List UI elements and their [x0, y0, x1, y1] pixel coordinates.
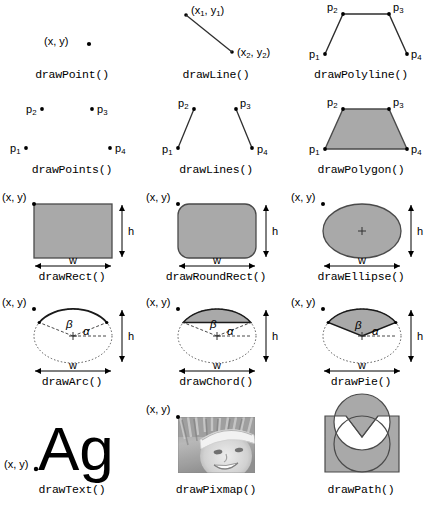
draw-text-art: Ag (x, y) — [0, 400, 144, 485]
pie-origin-dot — [321, 307, 325, 311]
chord-xy-label: (x, y) — [146, 296, 170, 308]
polygon-shape — [325, 109, 407, 149]
polyline-label-p3: p3 — [393, 1, 403, 15]
arc-center-cross — [69, 332, 77, 340]
rect-width-label: w — [68, 254, 77, 266]
pie-endpoint-alpha — [394, 321, 397, 324]
cell-draw-pie: α β (x, y) h w drawPie() — [289, 295, 433, 400]
chord-beta-label: β — [209, 318, 217, 330]
draw-point-art: (x, y) — [0, 0, 144, 70]
caption-draw-polyline: drawPolyline() — [289, 68, 433, 81]
pixmap-xy-label: (x, y) — [146, 403, 170, 415]
cell-draw-polyline: p1 p2 p3 p4 drawPolyline() — [289, 0, 433, 95]
points-label-p1: p1 — [10, 142, 20, 156]
polygon-label-p2: p2 — [327, 96, 337, 110]
arc-xy-label: (x, y) — [2, 296, 26, 308]
roundrect-height-label: h — [272, 225, 278, 237]
lines-dot-p2 — [192, 107, 196, 111]
cell-draw-pixmap: (x, y) drawPixmap() — [144, 400, 288, 508]
caption-draw-point: drawPoint() — [0, 68, 144, 81]
chord-center-cross — [213, 332, 221, 340]
points-label-p2: p2 — [26, 103, 36, 117]
caption-draw-line: drawLine() — [144, 68, 288, 81]
ellipse-height-label: h — [417, 225, 423, 237]
points-label-p4: p4 — [115, 142, 126, 156]
polyline-label-p4: p4 — [411, 48, 422, 62]
caption-draw-rect: drawRect() — [0, 270, 144, 283]
cell-draw-rect: (x, y) h w drawRect() — [0, 190, 144, 295]
arc-beta-label: β — [65, 318, 73, 330]
rect-height-label: h — [128, 225, 134, 237]
draw-ellipse-art: (x, y) h w — [289, 190, 433, 272]
chord-width-label: w — [212, 359, 221, 371]
rect-origin-dot — [32, 202, 36, 206]
polyline-vertex-p1 — [323, 52, 327, 56]
line-point-1-label: (x1, y1) — [191, 4, 224, 18]
text-xy-label: (x, y) — [4, 458, 28, 470]
arc-origin-dot — [32, 307, 36, 311]
rect-xy-label: (x, y) — [2, 191, 26, 203]
line-segment — [186, 15, 232, 52]
polyline-path — [325, 14, 407, 54]
caption-draw-path: drawPath() — [289, 483, 433, 496]
point-xy-label: (x, y) — [44, 35, 68, 47]
lines-dot-p3 — [234, 107, 238, 111]
arc-width-label: w — [68, 359, 77, 371]
caption-draw-chord: drawChord() — [144, 375, 288, 388]
caption-draw-polygon: drawPolygon() — [289, 163, 433, 176]
roundrect-shape — [178, 204, 256, 258]
draw-pie-art: α β (x, y) h w — [289, 295, 433, 377]
arc-stroke — [39, 309, 107, 323]
cell-draw-points: p2 p3 p1 p4 drawPoints() — [0, 95, 144, 190]
caption-draw-pie: drawPie() — [289, 375, 433, 388]
polygon-vertex-p4 — [405, 147, 409, 151]
points-dot-p4 — [108, 146, 112, 150]
roundrect-width-label: w — [212, 254, 221, 266]
pie-endpoint-beta — [327, 321, 330, 324]
draw-path-art — [289, 400, 433, 485]
draw-lines-art: p2 p1 p3 p4 — [144, 95, 288, 165]
pie-width-label: w — [357, 359, 366, 371]
draw-line-art: (x1, y1) (x2, y2) — [144, 0, 288, 70]
draw-roundrect-art: (x, y) h w — [144, 190, 288, 272]
roundrect-origin-dot — [176, 202, 180, 206]
draw-points-art: p2 p3 p1 p4 — [0, 95, 144, 165]
pixmap-origin-dot — [176, 415, 180, 419]
points-dot-p3 — [90, 107, 94, 111]
lines-label-p4: p4 — [257, 143, 268, 157]
pie-beta-label: β — [354, 319, 362, 331]
polygon-vertex-p3 — [387, 107, 391, 111]
cell-draw-roundrect: (x, y) h w drawRoundRect() — [144, 190, 288, 295]
ellipse-width-label: w — [357, 254, 366, 266]
polygon-label-p3: p3 — [393, 96, 403, 110]
cell-draw-text: Ag (x, y) drawText() — [0, 400, 144, 508]
chord-height-label: h — [272, 330, 278, 342]
draw-rect-art: (x, y) h w — [0, 190, 144, 272]
cell-draw-arc: α β (x, y) h w drawArc() — [0, 295, 144, 400]
lines-label-p1: p1 — [162, 143, 172, 157]
draw-polygon-art: p1 p2 p3 p4 — [289, 95, 433, 165]
roundrect-xy-label: (x, y) — [146, 191, 170, 203]
lines-dot-p4 — [250, 146, 254, 150]
polygon-label-p4: p4 — [411, 143, 422, 157]
caption-draw-roundrect: drawRoundRect() — [144, 270, 288, 283]
chord-alpha-label: α — [227, 325, 234, 337]
arc-alpha-label: α — [83, 325, 90, 337]
caption-draw-lines: drawLines() — [144, 163, 288, 176]
caption-draw-ellipse: drawEllipse() — [289, 270, 433, 283]
polyline-label-p2: p2 — [327, 1, 337, 15]
draw-pixmap-art: (x, y) — [144, 400, 288, 485]
draw-chord-art: α β (x, y) h w — [144, 295, 288, 377]
polygon-vertex-p2 — [341, 107, 345, 111]
points-dot-p2 — [40, 107, 44, 111]
lines-dot-p1 — [176, 146, 180, 150]
polygon-vertex-p1 — [323, 147, 327, 151]
arc-radius-alpha — [73, 323, 107, 337]
polyline-vertex-p2 — [341, 12, 345, 16]
caption-draw-text: drawText() — [0, 483, 144, 496]
polygon-label-p1: p1 — [309, 143, 319, 157]
polyline-label-p1: p1 — [309, 48, 319, 62]
draw-arc-art: α β (x, y) h w — [0, 295, 144, 377]
cell-draw-chord: α β (x, y) h w drawChord() — [144, 295, 288, 400]
caption-draw-pixmap: drawPixmap() — [144, 483, 288, 496]
